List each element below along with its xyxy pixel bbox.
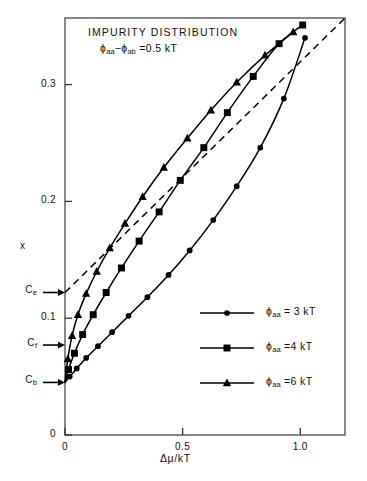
- annotation-Ce: Ce: [11, 284, 37, 297]
- legend-item-3[interactable]: ϕaa =6 kT: [266, 375, 313, 389]
- series-triangle: [64, 27, 298, 382]
- annotation-base: C: [25, 374, 33, 385]
- annotation-arrows: [43, 289, 65, 386]
- x-tick-label: 1.0: [283, 441, 317, 452]
- legend-markers: [200, 310, 254, 386]
- legend-marker-square: [224, 345, 231, 352]
- legend-marker-circle: [224, 310, 230, 316]
- annotation-subscript: b: [33, 378, 37, 387]
- data-series-group: [64, 22, 308, 383]
- y-tick-label: 0: [22, 428, 56, 439]
- y-tick-label: 0.2: [22, 194, 56, 205]
- legend-value: =4 kT: [284, 340, 313, 352]
- chart-title: IMPURITY DISTRIBUTION: [88, 26, 238, 38]
- series-square: [65, 22, 306, 383]
- legend-phi-subscript: aa: [272, 310, 280, 319]
- x-axis-label: Δμ/kT: [160, 452, 191, 464]
- y-tick-label: 0.3: [22, 78, 56, 89]
- annotation-subscript: f: [35, 341, 37, 350]
- annotation-Cf: Cf: [11, 337, 37, 350]
- phi-ab-subscript: ab: [127, 47, 135, 56]
- plot-frame: [65, 18, 345, 435]
- legend-value: = 3 kT: [284, 305, 316, 317]
- impurity-distribution-chart: [0, 0, 367, 481]
- annotation-subscript: e: [33, 288, 37, 297]
- annotation-base: C: [27, 337, 35, 348]
- phi-aa-subscript: aa: [106, 47, 114, 56]
- series-circle: [65, 35, 308, 382]
- legend-value: =6 kT: [284, 375, 313, 387]
- x-tick-label: 0: [48, 441, 82, 452]
- annotation-Cb: Cb: [11, 374, 37, 387]
- y-tick-label: 0.1: [22, 311, 56, 322]
- x-tick-label: 0.5: [166, 441, 200, 452]
- legend-phi-subscript: aa: [272, 345, 280, 354]
- y-axis-label: x: [20, 240, 25, 251]
- legend-item-2[interactable]: ϕaa =4 kT: [266, 340, 313, 354]
- chart-subtitle: ϕaa−ϕab =0.5 kT: [100, 42, 177, 56]
- legend-item-1[interactable]: ϕaa = 3 kT: [266, 305, 316, 319]
- annotation-base: C: [25, 284, 33, 295]
- legend-phi-subscript: aa: [272, 380, 280, 389]
- subtitle-value: =0.5 kT: [139, 42, 177, 54]
